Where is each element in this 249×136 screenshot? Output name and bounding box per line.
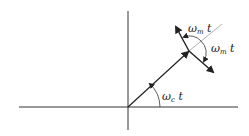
phasor-diagram: ωc t ωm t ωm t bbox=[0, 0, 249, 136]
sideband-arc-upper bbox=[184, 36, 201, 41]
sideband-vector-lower bbox=[189, 51, 213, 72]
sideband-arc-lower bbox=[201, 41, 206, 61]
sideband-angle-label-upper: ωm t bbox=[188, 22, 212, 36]
sideband-angle-label-lower: ωm t bbox=[211, 42, 235, 56]
carrier-angle-arc bbox=[150, 84, 160, 107]
carrier-angle-label: ωc t bbox=[162, 90, 183, 104]
